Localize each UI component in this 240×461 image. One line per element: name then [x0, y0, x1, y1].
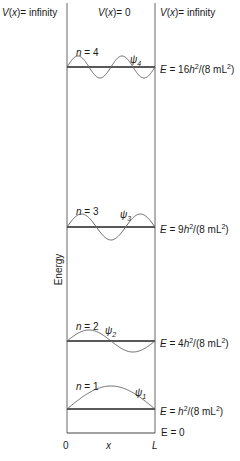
- potential-fn: V: [2, 7, 9, 18]
- quantum-number-label: n = 4: [76, 48, 99, 58]
- potential-fn: V: [160, 7, 167, 18]
- left-potential-label: V(x)= infinity: [2, 8, 57, 18]
- center-potential-label: V(x)= 0: [98, 8, 131, 18]
- x-start-label: 0: [63, 441, 69, 451]
- energy-value-label: E = 4h2/(8 mL2): [160, 337, 229, 349]
- x-axis-label: x: [106, 441, 111, 451]
- potential-value: = 0: [116, 7, 130, 18]
- right-potential-label: V(x)= infinity: [160, 8, 215, 18]
- x-end-label: L: [152, 441, 158, 451]
- potential-value: = infinity: [20, 7, 57, 18]
- potential-value: = infinity: [178, 7, 215, 18]
- energy-value-label: E = 16h2/(8 mL2): [160, 63, 234, 75]
- quantum-number-label: n = 2: [76, 322, 99, 332]
- quantum-number-label: n = 3: [76, 207, 99, 217]
- wavefunction-label: ψ2: [105, 326, 116, 338]
- ground-energy-label: E = 0: [161, 428, 185, 438]
- energy-axis-label: Energy: [53, 250, 64, 290]
- potential-var: x: [170, 7, 175, 18]
- wavefunction-label: ψ1: [135, 388, 146, 400]
- energy-value-label: E = h2/(8 mL2): [160, 405, 223, 417]
- energy-value-label: E = 9h2/(8 mL2): [160, 223, 229, 235]
- wavefunction-label: ψ3: [120, 210, 131, 222]
- quantum-number-label: n = 1: [76, 382, 99, 392]
- potential-var: x: [108, 7, 113, 18]
- wavefunction-label: ψ4: [130, 55, 141, 67]
- potential-var: x: [12, 7, 17, 18]
- potential-fn: V: [98, 7, 105, 18]
